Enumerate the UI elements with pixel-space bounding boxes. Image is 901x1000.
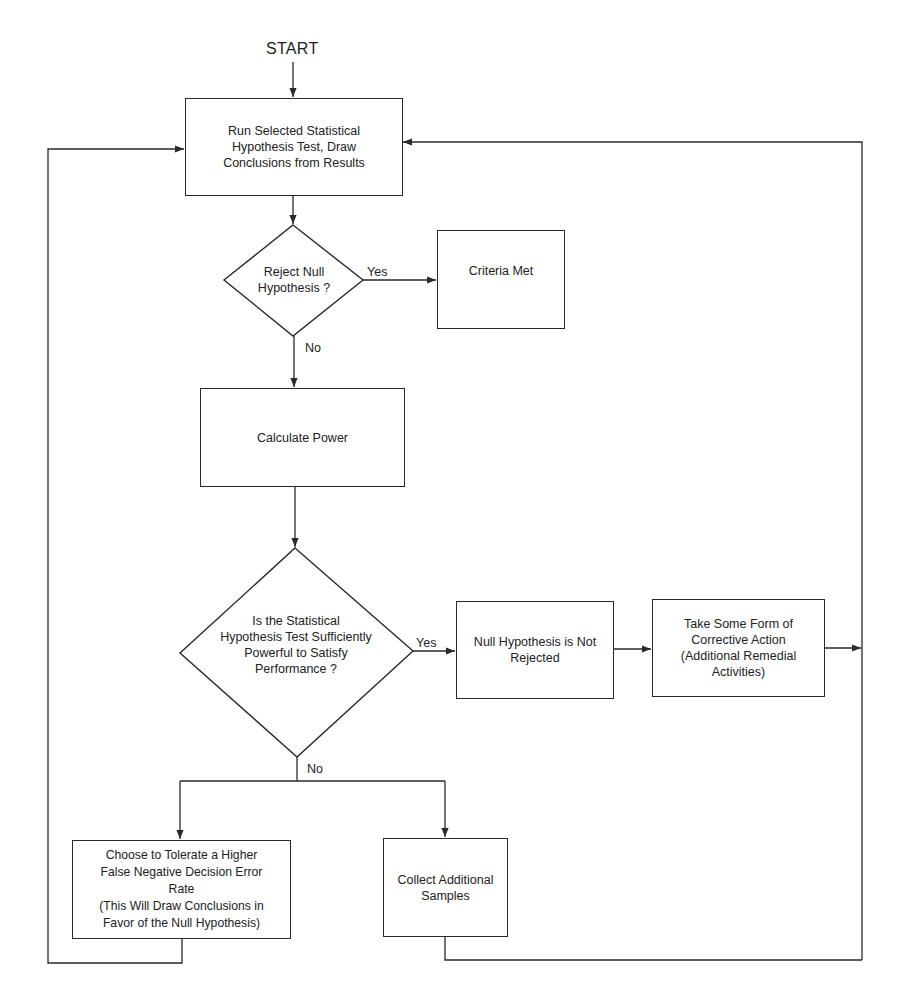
label-reject-no: No bbox=[305, 341, 321, 355]
node-tolerate-error: Choose to Tolerate a Higher False Negati… bbox=[72, 840, 291, 939]
edge-collect-loop bbox=[445, 937, 862, 960]
label-power-no: No bbox=[307, 762, 323, 776]
node-criteria-met: Criteria Met bbox=[437, 230, 565, 329]
label-reject-yes: Yes bbox=[367, 265, 387, 279]
node-collect-samples: Collect Additional Samples bbox=[383, 838, 508, 937]
flowchart: START Run Selected Statistical Hypothesi… bbox=[0, 0, 901, 1000]
node-run-test: Run Selected Statistical Hypothesis Test… bbox=[185, 98, 403, 196]
node-corrective-action: Take Some Form of Corrective Action (Add… bbox=[652, 599, 825, 697]
start-label: START bbox=[266, 40, 318, 58]
node-reject-null: Reject Null Hypothesis ? bbox=[234, 258, 354, 302]
node-sufficient-power: Is the Statistical Hypothesis Test Suffi… bbox=[198, 610, 394, 680]
label-power-yes: Yes bbox=[416, 636, 436, 650]
node-null-not-rejected: Null Hypothesis is Not Rejected bbox=[456, 601, 614, 699]
node-calculate-power: Calculate Power bbox=[200, 388, 405, 487]
